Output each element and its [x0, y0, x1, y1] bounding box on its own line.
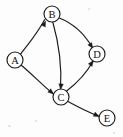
node-a: A: [7, 52, 23, 68]
edge-path-b-d: [59, 18, 92, 48]
node-e: E: [99, 110, 115, 126]
node-c: C: [53, 89, 69, 105]
edge-a-c: [21, 65, 53, 94]
node-label-b: B: [48, 9, 55, 20]
node-b: B: [44, 6, 60, 22]
node-label-c: C: [57, 92, 64, 103]
edge-b-c: [53, 22, 64, 90]
node-label-e: E: [104, 113, 110, 124]
edge-path-c-e: [68, 102, 99, 117]
edge-c-e: [68, 102, 99, 117]
edge-a-b: [21, 20, 46, 55]
edge-path-a-c: [21, 65, 52, 93]
node-label-a: A: [11, 55, 19, 66]
node-label-d: D: [93, 49, 101, 60]
diagram-canvas: A B C D E: [0, 0, 123, 137]
arrowhead-into-d-from-c: [88, 61, 93, 67]
edge-path-c-d: [67, 62, 93, 92]
node-d: D: [89, 46, 105, 62]
edge-path-b-c: [53, 22, 61, 89]
arrowhead-into-e: [93, 112, 99, 116]
directed-graph: A B C D E: [0, 0, 123, 137]
edge-c-d: [67, 61, 94, 91]
edge-b-d: [59, 18, 93, 48]
edge-path-a-b: [21, 20, 45, 55]
